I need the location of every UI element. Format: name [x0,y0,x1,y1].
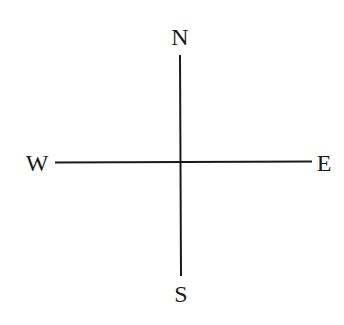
vertical-axis-line [180,55,181,276]
west-label: W [26,150,49,176]
north-label: N [171,24,188,50]
horizontal-axis-line [55,162,312,163]
compass-svg: N S W E [0,0,344,325]
compass-diagram: N S W E [0,0,344,325]
east-label: E [317,150,332,176]
south-label: S [174,281,187,307]
